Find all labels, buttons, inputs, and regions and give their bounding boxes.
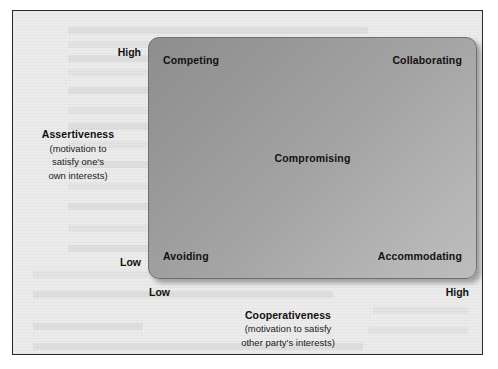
mode-label-compromising: Compromising	[275, 152, 351, 164]
y-axis-subtitle-line1: (motivation to	[19, 142, 137, 156]
mode-label-competing: Competing	[163, 54, 219, 66]
x-axis-high-marker: High	[425, 286, 469, 298]
y-axis-high-marker: High	[99, 46, 141, 58]
y-axis-low-marker: Low	[99, 256, 141, 268]
y-axis-title: Assertiveness	[19, 128, 137, 142]
y-axis-subtitle-line2: satisfy one's	[19, 155, 137, 169]
ghost-text-line	[68, 27, 368, 34]
x-axis-subtitle-line2: other party's interests)	[168, 336, 408, 350]
figure-frame: Assertiveness (motivation to satisfy one…	[12, 10, 483, 355]
x-axis-subtitle-line1: (motivation to satisfy	[168, 322, 408, 336]
mode-label-avoiding: Avoiding	[163, 250, 209, 262]
ghost-text-line	[33, 323, 143, 330]
ghost-text-line	[33, 291, 333, 298]
y-axis-label-group: Assertiveness (motivation to satisfy one…	[19, 128, 137, 182]
x-axis-title: Cooperativeness	[168, 308, 408, 322]
x-axis-label-group: Cooperativeness (motivation to satisfy o…	[168, 308, 408, 350]
mode-label-collaborating: Collaborating	[392, 54, 462, 66]
y-axis-subtitle-line3: own interests)	[19, 169, 137, 183]
figure-root: Assertiveness (motivation to satisfy one…	[0, 0, 498, 369]
mode-label-accommodating: Accommodating	[378, 250, 462, 262]
quadrant-plot-area: Competing Collaborating Compromising Avo…	[148, 37, 477, 279]
x-axis-low-marker: Low	[149, 286, 170, 298]
